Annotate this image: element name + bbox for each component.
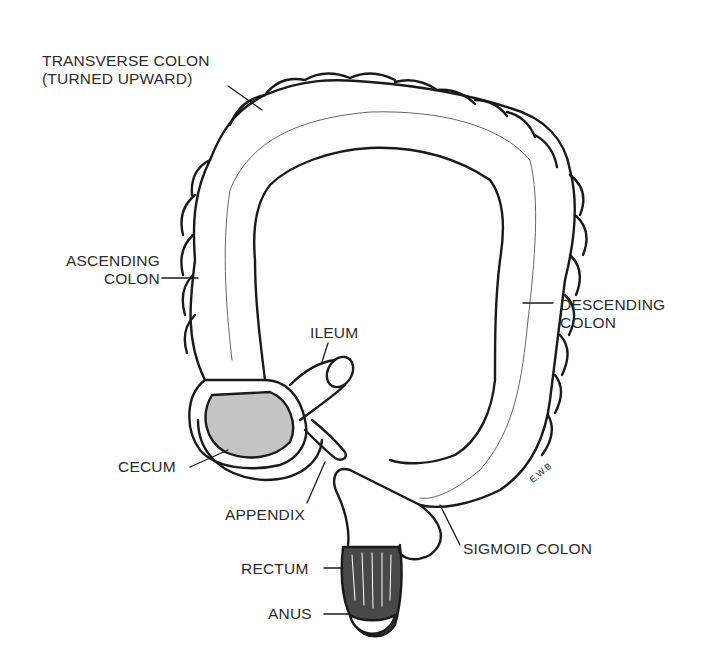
label-anus: ANUS — [268, 605, 312, 623]
label-sigmoid-colon: SIGMOID COLON — [463, 540, 592, 558]
leader-appendix — [307, 462, 325, 503]
label-line: DESCENDING — [560, 296, 665, 314]
cecum-inner — [206, 392, 294, 457]
label-line: TRANSVERSE COLON — [42, 52, 210, 70]
label-line: ASCENDING — [40, 252, 160, 270]
ileum-tube — [290, 360, 345, 420]
ileum-opening — [322, 352, 359, 392]
sigmoid-outline — [334, 469, 441, 559]
label-ileum: ILEUM — [310, 324, 358, 342]
label-descending-colon: DESCENDING COLON — [560, 296, 665, 332]
label-line: COLON — [40, 270, 160, 288]
label-cecum: CECUM — [118, 458, 176, 476]
label-line: COLON — [560, 314, 665, 332]
label-appendix: APPENDIX — [225, 506, 305, 524]
label-rectum: RECTUM — [241, 560, 309, 578]
appendix-outline — [305, 420, 346, 460]
haustra-top — [230, 73, 557, 167]
label-line: (TURNED UPWARD) — [42, 70, 210, 88]
leader-ileum — [322, 343, 328, 362]
label-ascending-colon: ASCENDING COLON — [40, 252, 160, 288]
colon-illustration — [0, 0, 724, 666]
label-transverse-colon: TRANSVERSE COLON (TURNED UPWARD) — [42, 52, 210, 88]
colon-diagram: TRANSVERSE COLON (TURNED UPWARD) ASCENDI… — [0, 0, 724, 666]
leader-sigmoid — [440, 505, 460, 545]
